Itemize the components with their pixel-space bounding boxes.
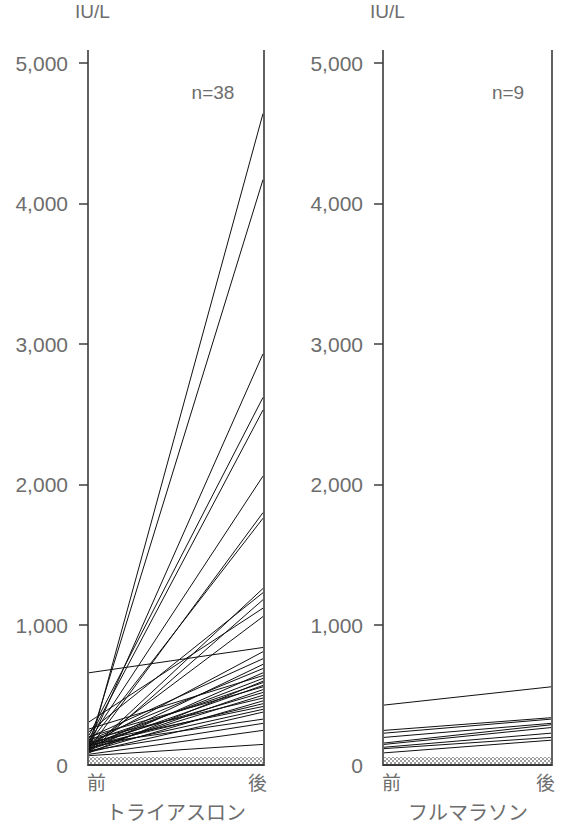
subject-line	[89, 410, 263, 739]
y-tick-labels-right: 5,000 4,000 3,000 2,000 1,000 0	[310, 52, 363, 777]
y-tick-marks-left	[79, 63, 88, 625]
reference-range-band-right	[384, 757, 551, 765]
subject-line	[89, 518, 263, 743]
panel-triathlon: IU/L n=38 5,000 4,000 3,000 2,000 1,000 …	[15, 1, 266, 824]
y-tick-label: 0	[56, 754, 68, 777]
y-tick-label: 0	[351, 754, 363, 777]
x-tick-label-after-left: 後	[248, 773, 267, 794]
subject-line	[89, 476, 263, 741]
subject-line	[89, 719, 263, 744]
subject-line	[89, 659, 263, 738]
y-tick-label: 5,000	[310, 52, 363, 75]
y-tick-label: 2,000	[310, 473, 363, 496]
x-tick-label-before-left: 前	[87, 773, 106, 794]
unit-label-right: IU/L	[370, 1, 405, 22]
subject-line	[384, 718, 551, 731]
y-tick-labels-left: 5,000 4,000 3,000 2,000 1,000 0	[15, 52, 68, 777]
y-tick-label: 1,000	[310, 614, 363, 637]
n-label-full-marathon: n=9	[492, 82, 524, 103]
y-tick-label: 3,000	[310, 333, 363, 356]
subject-line	[384, 719, 551, 733]
subject-line	[89, 354, 263, 747]
y-tick-label: 1,000	[15, 614, 68, 637]
paired-line-chart: IU/L n=38 5,000 4,000 3,000 2,000 1,000 …	[0, 0, 578, 839]
y-tick-label: 2,000	[15, 473, 68, 496]
x-tick-label-after-right: 後	[536, 773, 555, 794]
y-tick-label: 3,000	[15, 333, 68, 356]
x-tick-label-before-right: 前	[382, 773, 401, 794]
subject-line	[89, 114, 263, 750]
subject-line	[384, 687, 551, 705]
y-tick-label: 4,000	[15, 192, 68, 215]
panel-caption-triathlon: トライアスロン	[106, 802, 246, 824]
unit-label-left: IU/L	[75, 1, 110, 22]
figure-root: IU/L n=38 5,000 4,000 3,000 2,000 1,000 …	[0, 0, 578, 839]
panel-caption-full-marathon: フルマラソン	[408, 802, 528, 824]
y-tick-marks-right	[374, 63, 383, 625]
reference-range-band-left	[89, 757, 263, 765]
n-label-triathlon: n=38	[192, 82, 235, 103]
series-lines-full-marathon	[384, 687, 551, 753]
y-tick-label: 4,000	[310, 192, 363, 215]
y-tick-label: 5,000	[15, 52, 68, 75]
panel-full-marathon: IU/L n=9 5,000 4,000 3,000 2,000 1,000 0	[310, 1, 554, 824]
series-lines-triathlon	[89, 114, 263, 756]
